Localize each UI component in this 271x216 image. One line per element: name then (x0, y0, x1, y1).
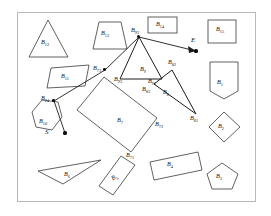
obstacle-label-B1: B1 (217, 79, 223, 88)
point-label-S: S (45, 129, 49, 136)
obstacle-label-B3: B3 (216, 173, 222, 182)
obstacle-label-B2: B2 (218, 123, 224, 132)
path-vertex-label-B71: B71 (126, 152, 134, 161)
figure-canvas: S E B12 B13 B14 B15 B11 B1 B10 B2 B3 B4 … (0, 0, 271, 216)
path-polyline-main (54, 37, 196, 133)
path-vertex-label-B24: B24 (41, 95, 49, 104)
path-vertex-dot-B24 (52, 99, 54, 101)
path-vertex-label-B83: B83 (142, 86, 150, 95)
start-point-dot (63, 131, 66, 134)
obstacle-label-B11: B11 (61, 73, 69, 82)
path-vertex-dot-B73 (103, 68, 105, 70)
obstacle-label-B8: B8 (163, 89, 169, 98)
point-label-E: E (191, 37, 195, 44)
obstacle-label-B7: B7 (117, 117, 123, 126)
end-point-dot (194, 49, 197, 52)
path-vertex-label-B92: B92 (131, 27, 139, 36)
path-vertex-label-B93: B93 (114, 76, 122, 85)
obstacle-B3 (207, 163, 238, 189)
path-vertex-label-B73: B73 (93, 65, 101, 74)
obstacle-label-B4: B4 (167, 161, 173, 170)
obstacle-B2 (209, 112, 240, 142)
obstacle-B4 (150, 152, 202, 180)
path-vertex-label-B81: B81 (190, 115, 198, 124)
obstacle-B1 (210, 62, 238, 99)
obstacle-label-B14: B14 (156, 21, 164, 30)
obstacle-label-B6: B6 (64, 171, 70, 180)
obstacle-label-B15: B15 (216, 26, 224, 35)
path-vertex-label-B72: B72 (155, 121, 163, 130)
obstacle-label-B13: B13 (101, 30, 109, 39)
obstacle-label-B9: B9 (140, 66, 146, 75)
obstacle-label-B10: B10 (39, 118, 47, 127)
path-vertex-label-B82: B82 (168, 59, 176, 68)
obstacle-label-B12: B12 (41, 39, 49, 48)
obstacle-B13 (93, 22, 127, 49)
